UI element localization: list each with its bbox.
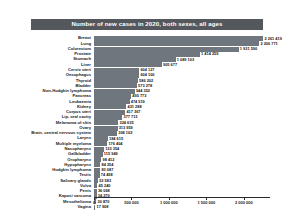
bar-row: Non-Hodgkin lymphoma544 352 bbox=[0, 89, 294, 94]
bar-row: Hodgkin lymphoma83 087 bbox=[0, 168, 294, 173]
axis-tick-label: 500 000 bbox=[124, 201, 138, 205]
bar bbox=[94, 68, 139, 73]
bar-row: Testis74 458 bbox=[0, 173, 294, 178]
bar-track: 2 206 771 bbox=[94, 41, 294, 46]
plot-area: Breast2 261 419Lung2 206 771Colorectum1 … bbox=[0, 36, 294, 196]
bar bbox=[94, 126, 118, 131]
bar-category-label: Vagina bbox=[0, 205, 94, 209]
bar-track: 36 068 bbox=[94, 189, 294, 194]
bar-track: 98 412 bbox=[94, 157, 294, 162]
bar-category-label: Kaposi sarcoma bbox=[0, 194, 94, 198]
bar-row: Multiple myeloma176 404 bbox=[0, 141, 294, 146]
bar-row: Leukaemia474 519 bbox=[0, 99, 294, 104]
bar-category-label: Gallbladder bbox=[0, 152, 94, 156]
bar-track: 45 240 bbox=[94, 183, 294, 188]
axis-tick-label: 1 500 000 bbox=[197, 201, 215, 205]
axis-tick-label: 0 bbox=[93, 201, 95, 205]
axis-tick-label: 1 000 000 bbox=[160, 201, 178, 205]
bar-row: Penis36 068 bbox=[0, 189, 294, 194]
bar bbox=[94, 120, 118, 125]
bar-row: Breast2 261 419 bbox=[0, 36, 294, 41]
bar-track: 1 089 103 bbox=[94, 57, 294, 62]
bar-track: 604 100 bbox=[94, 73, 294, 78]
bar-track: 544 352 bbox=[94, 89, 294, 94]
bar-track: 495 773 bbox=[94, 94, 294, 99]
bar-category-label: Breast bbox=[0, 36, 94, 40]
bar-track: 133 354 bbox=[94, 147, 294, 152]
bar-track: 115 949 bbox=[94, 152, 294, 157]
bar-track: 184 615 bbox=[94, 136, 294, 141]
bar bbox=[94, 115, 122, 120]
bar-track: 308 102 bbox=[94, 131, 294, 136]
bar-row: Larynx184 615 bbox=[0, 136, 294, 141]
bar bbox=[94, 94, 131, 99]
bar-category-label: Stomach bbox=[0, 57, 94, 61]
bar-row: Salivary glands53 583 bbox=[0, 178, 294, 183]
bar-track: 53 583 bbox=[94, 178, 294, 183]
bar-row: Lip, oral cavity377 713 bbox=[0, 115, 294, 120]
chart-container: Number of new cases in 2020, both sexes,… bbox=[0, 0, 294, 219]
bar-track: 474 519 bbox=[94, 99, 294, 104]
bar-track: 586 202 bbox=[94, 78, 294, 83]
bar-value-label: 905 677 bbox=[162, 63, 177, 67]
bar bbox=[94, 157, 101, 162]
bar-value-label: 2 206 771 bbox=[259, 42, 278, 46]
bar-row: Prostate1 414 259 bbox=[0, 52, 294, 57]
bar-row: Oropharynx98 412 bbox=[0, 157, 294, 162]
bar-row: Corpus uteri417 367 bbox=[0, 110, 294, 115]
page-title: Number of new cases in 2020, both sexes,… bbox=[72, 21, 223, 27]
bar-track: 84 254 bbox=[94, 162, 294, 167]
bar-row: Vulva45 240 bbox=[0, 183, 294, 188]
bar-category-label: Pancreas bbox=[0, 94, 94, 98]
axis-tick-label: 2 000 000 bbox=[235, 201, 253, 205]
bar-row: Colorectum1 931 590 bbox=[0, 47, 294, 52]
bar bbox=[94, 41, 259, 46]
bar-track: 431 288 bbox=[94, 104, 294, 109]
bar-category-label: Testis bbox=[0, 173, 94, 177]
bar-row: Stomach1 089 103 bbox=[0, 57, 294, 62]
bar bbox=[94, 73, 139, 78]
bar-value-label: 1 414 259 bbox=[200, 52, 219, 56]
bar-row: Melanoma of skin324 635 bbox=[0, 120, 294, 125]
x-axis: 0500 0001 000 0001 500 0002 000 000 bbox=[94, 197, 270, 215]
bar bbox=[94, 36, 263, 41]
bar bbox=[94, 110, 125, 115]
bar-track: 74 458 bbox=[94, 173, 294, 178]
bar bbox=[94, 99, 130, 104]
bar-category-label: Larynx bbox=[0, 136, 94, 140]
bar bbox=[94, 83, 137, 88]
bar bbox=[94, 136, 108, 141]
bar-row: Pancreas495 773 bbox=[0, 94, 294, 99]
bar-track: 1 931 590 bbox=[94, 47, 294, 52]
bar bbox=[94, 152, 103, 157]
bar-track: 83 087 bbox=[94, 168, 294, 173]
bar-category-label: Lip, oral cavity bbox=[0, 115, 94, 119]
bar-row: Hypopharynx84 254 bbox=[0, 162, 294, 167]
bar bbox=[94, 78, 138, 83]
bar-value-label: 1 089 103 bbox=[176, 58, 195, 62]
bar-row: Kidney431 288 bbox=[0, 104, 294, 109]
bar-row: Brain, central nervous system308 102 bbox=[0, 131, 294, 136]
bar-track: 176 404 bbox=[94, 141, 294, 146]
bar-track: 573 278 bbox=[94, 83, 294, 88]
bar bbox=[94, 147, 104, 152]
bar-row: Gallbladder115 949 bbox=[0, 152, 294, 157]
bar-track: 604 127 bbox=[94, 68, 294, 73]
bar-category-label: Oesophagus bbox=[0, 73, 94, 77]
bar-track: 905 677 bbox=[94, 62, 294, 67]
bar bbox=[94, 89, 135, 94]
bar-row: Nasopharynx133 354 bbox=[0, 147, 294, 152]
bar bbox=[94, 104, 126, 109]
chart-title-bar: Number of new cases in 2020, both sexes,… bbox=[31, 19, 263, 30]
bar-value-label: 1 931 590 bbox=[239, 47, 258, 51]
